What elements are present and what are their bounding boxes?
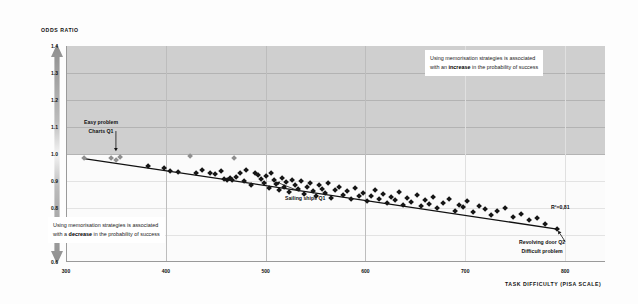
chart-canvas: ODDS RATIO TASK DIFFICULTY (PISA SCALE) … [0, 0, 638, 304]
x-tick-800: 800 [553, 268, 577, 274]
callout-increase: Using memorisation strategies is associa… [425, 50, 543, 76]
label-sailing-ships: Sailing ships Q1 [285, 194, 325, 203]
x-tick-400: 400 [154, 268, 178, 274]
y-axis-title: ODDS RATIO [41, 27, 79, 33]
callout-decrease: Using memorisation strategies is associa… [48, 217, 165, 243]
plot-bottom-border [66, 261, 605, 262]
callout-decrease-line1: Using memorisation strategies is associa… [53, 222, 158, 228]
callout-increase-line2-pre: with an [430, 64, 449, 70]
y-tick-1.2: 1.2 [38, 97, 58, 103]
x-tick-500: 500 [254, 268, 278, 274]
x-tick-700: 700 [453, 268, 477, 274]
label-revolving-door: Revolving door Q2 Difficult problem [519, 238, 565, 255]
callout-increase-line2-post: in the probability of success [470, 64, 538, 70]
label-easy-line2: Charts Q1 [89, 128, 114, 134]
label-easy-line1: Easy problem [84, 119, 118, 125]
callout-increase-line1: Using memorisation strategies is associa… [430, 55, 535, 61]
callout-decrease-line2-post: in the probability of success [92, 231, 160, 237]
y-tick-1.3: 1.3 [38, 70, 58, 76]
y-tick-0.9: 0.9 [38, 178, 58, 184]
label-revolving-line2: Difficult problem [521, 248, 562, 254]
y-tick-0.6: 0.6 [38, 259, 58, 265]
callout-decrease-line2-pre: with a [53, 231, 69, 237]
x-tick-300: 300 [54, 268, 78, 274]
x-tick-600: 600 [353, 268, 377, 274]
callout-increase-emphasis: increase [449, 64, 471, 70]
callout-decrease-emphasis: decrease [69, 231, 92, 237]
label-easy-problem: Easy problem Charts Q1 [84, 118, 118, 135]
y-tick-0.8: 0.8 [38, 205, 58, 211]
label-revolving-line1: Revolving door Q2 [519, 239, 565, 245]
y-tick-1.4: 1.4 [38, 43, 58, 49]
x-axis-title: TASK DIFFICULTY (PISA SCALE) [505, 281, 601, 287]
y-tick-1.1: 1.1 [38, 124, 58, 130]
y-tick-1.0: 1.0 [38, 151, 58, 157]
r-squared-label: R²=0,81 [551, 203, 570, 212]
